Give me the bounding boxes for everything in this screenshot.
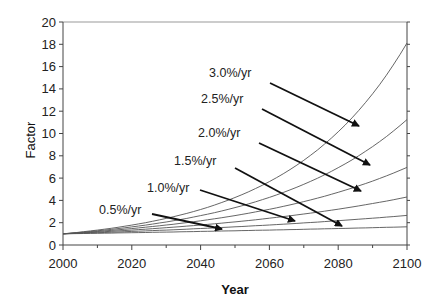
growth-factor-chart: 02468101214161820 2000202020402060208021… (0, 0, 441, 307)
y-tick-label: 14 (42, 81, 56, 96)
annotation-label: 1.0%/yr (147, 181, 189, 195)
annotation-label: 0.5%/yr (99, 203, 141, 217)
y-axis-title: Factor (23, 121, 38, 159)
y-tick-label: 2 (49, 215, 56, 230)
x-axis-title: Year (221, 282, 248, 297)
y-tick-label: 16 (42, 59, 56, 74)
x-axis: 200020202040206020802100 (49, 245, 422, 271)
x-tick-label: 2040 (186, 256, 215, 271)
annotation-label: 2.5%/yr (201, 92, 243, 106)
annotation-label: 1.5%/yr (174, 154, 216, 168)
x-tick-label: 2100 (393, 256, 422, 271)
annotation-label: 3.0%/yr (209, 66, 251, 80)
y-tick-label: 4 (49, 193, 56, 208)
x-tick-label: 2060 (255, 256, 284, 271)
arrow-icon (262, 109, 370, 165)
x-tick-label: 2020 (117, 256, 146, 271)
annotation-label: 2.0%/yr (198, 126, 240, 140)
y-tick-label: 18 (42, 37, 56, 52)
y-tick-label: 0 (49, 238, 56, 253)
y-tick-label: 20 (42, 15, 56, 30)
x-tick-label: 2080 (324, 256, 353, 271)
y-tick-label: 8 (49, 148, 56, 163)
arrow-icon (152, 214, 222, 229)
arrow-icon (235, 168, 342, 226)
arrow-icon (259, 143, 361, 191)
y-tick-label: 12 (42, 104, 56, 119)
y-tick-label: 10 (42, 126, 56, 141)
y-tick-label: 6 (49, 171, 56, 186)
x-tick-label: 2000 (49, 256, 78, 271)
arrow-annotations: 3.0%/yr2.5%/yr2.0%/yr1.5%/yr1.0%/yr0.5%/… (99, 66, 370, 229)
